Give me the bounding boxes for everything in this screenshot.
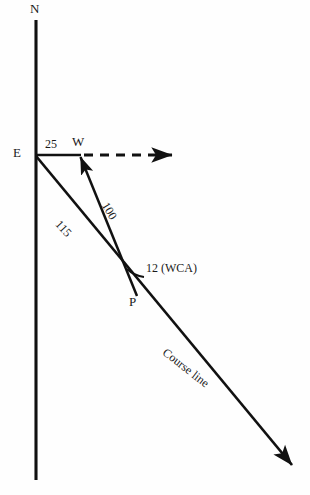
label-plane-point: P <box>129 295 136 308</box>
heading-line-stroke <box>81 157 138 296</box>
label-wca: 12 (WCA) <box>146 262 197 274</box>
label-wind-speed: 25 <box>45 138 57 150</box>
label-north: N <box>30 2 39 15</box>
label-east-point: E <box>13 146 21 159</box>
label-wind-point: W <box>72 135 84 148</box>
diagram-canvas <box>0 0 310 495</box>
wind-triangle-diagram: N E W 25 P 12 (WCA) 115 100 Course line <box>0 0 310 495</box>
course-line-stroke <box>36 156 292 465</box>
